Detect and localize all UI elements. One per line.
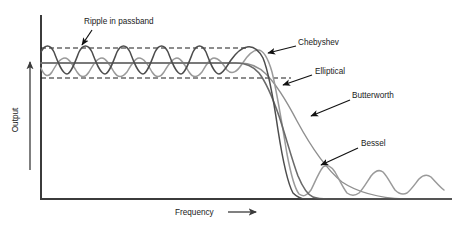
annotation-label-bessel: Bessel xyxy=(361,139,386,148)
y-axis-label: Output xyxy=(11,107,20,132)
chart-canvas: Ripple in passband Chebyshev Elliptical … xyxy=(0,0,452,227)
chart-background xyxy=(0,0,452,227)
filter-response-chart: Ripple in passband Chebyshev Elliptical … xyxy=(0,0,452,227)
x-axis-label: Frequency xyxy=(175,208,215,217)
annotation-label-elliptical: Elliptical xyxy=(315,67,345,76)
annotation-label-butterworth: Butterworth xyxy=(352,91,394,100)
annotation-label-chebyshev: Chebyshev xyxy=(298,38,340,47)
annotation-label-ripple: Ripple in passband xyxy=(84,17,154,26)
